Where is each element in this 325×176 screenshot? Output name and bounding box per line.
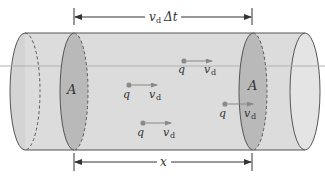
- svg-text:d: d: [211, 68, 216, 77]
- dimension-x: x: [74, 153, 252, 171]
- svg-text:Δt: Δt: [163, 10, 178, 24]
- svg-text:d: d: [251, 112, 256, 121]
- dimension-vd-dt: v d Δt: [74, 8, 252, 25]
- svg-text:d: d: [170, 131, 175, 140]
- svg-text:d: d: [156, 93, 161, 102]
- cross-section-left: A: [60, 33, 88, 150]
- svg-text:q: q: [123, 88, 130, 101]
- drift-velocity-diagram: A A q v d q v d q v d q v d: [0, 0, 325, 176]
- svg-text:v: v: [149, 88, 156, 101]
- area-label-right: A: [247, 78, 257, 93]
- svg-text:v: v: [149, 10, 156, 24]
- svg-text:v: v: [244, 107, 251, 120]
- svg-text:q: q: [178, 63, 185, 76]
- svg-text:x: x: [160, 155, 167, 169]
- svg-text:v: v: [204, 63, 211, 76]
- cross-section-right: A: [239, 33, 267, 150]
- svg-text:v: v: [163, 126, 170, 139]
- area-label-left: A: [66, 82, 76, 97]
- svg-text:q: q: [219, 107, 226, 120]
- svg-text:q: q: [137, 126, 144, 139]
- svg-text:d: d: [156, 16, 161, 25]
